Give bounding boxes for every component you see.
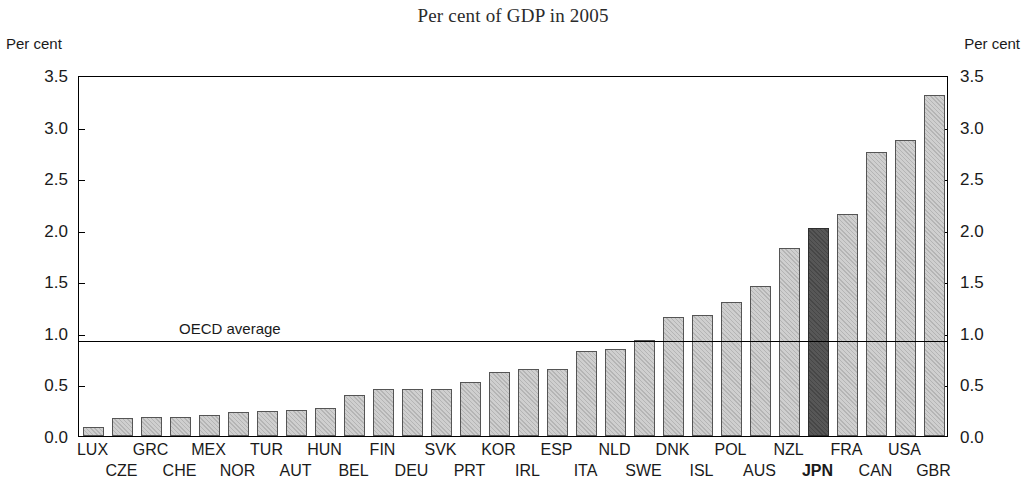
- y-tick-label-right-2.5: 2.5: [960, 171, 984, 188]
- x-tick-label-pol: POL: [714, 442, 746, 458]
- x-tick-label-isl: ISL: [689, 463, 713, 479]
- bar-can: [866, 152, 887, 436]
- x-tick-label-deu: DEU: [395, 463, 429, 479]
- y-axis-unit-label-right: Per cent: [964, 35, 1020, 52]
- bar-esp: [547, 369, 568, 436]
- y-tick-label-right-1.0: 1.0: [960, 325, 984, 342]
- plot-area: OECD average: [78, 76, 948, 437]
- x-tick-label-mex: MEX: [191, 442, 226, 458]
- bar-prt: [460, 382, 481, 436]
- y-tick-label-left-1.0: 1.0: [44, 325, 68, 342]
- bar-isl: [692, 315, 713, 436]
- x-tick-label-esp: ESP: [540, 442, 572, 458]
- bar-nzl: [779, 248, 800, 436]
- bar-tur: [257, 411, 278, 436]
- x-tick-label-fin: FIN: [370, 442, 396, 458]
- y-tick-label-left-1.5: 1.5: [44, 274, 68, 291]
- bar-aus: [750, 286, 771, 436]
- x-tick-label-gbr: GBR: [916, 463, 951, 479]
- oecd-average-label: OECD average: [179, 320, 281, 337]
- bar-che: [170, 417, 191, 436]
- bar-grc: [141, 417, 162, 436]
- x-axis-category-labels: LUXCZEGRCCHEMEXNORTURAUTHUNBELFINDEUSVKP…: [0, 437, 1026, 481]
- bar-gbr: [924, 95, 945, 436]
- x-tick-label-dnk: DNK: [656, 442, 690, 458]
- x-tick-label-grc: GRC: [133, 442, 169, 458]
- x-tick-label-aus: AUS: [743, 463, 776, 479]
- y-tick-label-left-2.5: 2.5: [44, 171, 68, 188]
- x-tick-label-aut: AUT: [280, 463, 312, 479]
- y-tick-label-right-2.0: 2.0: [960, 222, 984, 239]
- oecd-average-line: [78, 341, 948, 342]
- x-tick-label-svk: SVK: [424, 442, 456, 458]
- x-tick-label-bel: BEL: [338, 463, 368, 479]
- bar-fin: [373, 389, 394, 436]
- x-tick-label-kor: KOR: [481, 442, 516, 458]
- bar-kor: [489, 372, 510, 436]
- bar-dnk: [663, 317, 684, 436]
- chart-title: Per cent of GDP in 2005: [0, 5, 1026, 27]
- x-tick-label-fra: FRA: [831, 442, 863, 458]
- x-tick-label-nzl: NZL: [773, 442, 803, 458]
- bar-jpn: [808, 228, 829, 436]
- bar-cze: [112, 418, 133, 436]
- y-axis-unit-label-left: Per cent: [6, 35, 62, 52]
- x-tick-label-jpn: JPN: [802, 463, 833, 479]
- x-tick-label-can: CAN: [859, 463, 893, 479]
- x-tick-label-prt: PRT: [454, 463, 486, 479]
- y-tick-label-left-3.0: 3.0: [44, 119, 68, 136]
- y-tick-label-right-3.5: 3.5: [960, 68, 984, 85]
- bar-svk: [431, 389, 452, 436]
- bar-deu: [402, 389, 423, 436]
- x-tick-label-swe: SWE: [625, 463, 661, 479]
- bar-aut: [286, 410, 307, 436]
- bar-swe: [634, 340, 655, 436]
- x-tick-label-usa: USA: [888, 442, 921, 458]
- x-tick-label-nor: NOR: [220, 463, 256, 479]
- bar-fra: [837, 214, 858, 436]
- y-tick-label-right-1.5: 1.5: [960, 274, 984, 291]
- x-tick-label-cze: CZE: [106, 463, 138, 479]
- bar-bel: [344, 395, 365, 436]
- bar-nor: [228, 412, 249, 436]
- bar-nld: [605, 349, 626, 436]
- bar-lux: [83, 427, 104, 436]
- x-tick-label-tur: TUR: [250, 442, 283, 458]
- x-tick-label-hun: HUN: [307, 442, 342, 458]
- bar-mex: [199, 415, 220, 436]
- x-tick-label-ita: ITA: [574, 463, 598, 479]
- x-tick-label-lux: LUX: [77, 442, 108, 458]
- x-tick-label-che: CHE: [163, 463, 197, 479]
- bar-series: [79, 77, 947, 436]
- y-tick-label-right-0.5: 0.5: [960, 377, 984, 394]
- x-tick-label-irl: IRL: [515, 463, 540, 479]
- bar-irl: [518, 369, 539, 436]
- y-tick-label-right-3.0: 3.0: [960, 119, 984, 136]
- y-tick-label-left-2.0: 2.0: [44, 222, 68, 239]
- bar-usa: [895, 140, 916, 436]
- y-tick-label-left-0.5: 0.5: [44, 377, 68, 394]
- x-tick-label-nld: NLD: [598, 442, 630, 458]
- bar-ita: [576, 351, 597, 436]
- bar-hun: [315, 408, 336, 436]
- y-tick-label-left-3.5: 3.5: [44, 68, 68, 85]
- bar-pol: [721, 302, 742, 436]
